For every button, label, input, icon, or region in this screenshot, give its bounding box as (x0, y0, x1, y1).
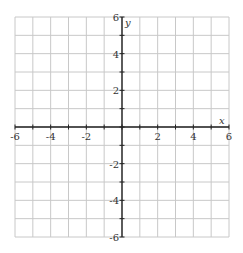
coordinate-plane: -6-4-2246642-2-4-6 x y (0, 0, 243, 253)
y-tick-label: 4 (113, 49, 119, 60)
x-tick-label: -2 (81, 131, 91, 142)
x-axis-label: x (219, 115, 225, 126)
y-tick-label: -4 (109, 195, 119, 206)
y-tick-label: 6 (113, 12, 119, 23)
y-tick-label: 2 (113, 85, 119, 96)
y-tick-label: -6 (109, 232, 119, 243)
x-tick-label: 2 (154, 131, 160, 142)
y-axis-label: y (124, 17, 131, 28)
y-tick-label: -2 (109, 159, 119, 170)
x-tick-label: -4 (46, 131, 56, 142)
x-tick-label: 4 (190, 131, 196, 142)
x-tick-label: -6 (10, 131, 20, 142)
x-tick-label: 6 (226, 131, 232, 142)
